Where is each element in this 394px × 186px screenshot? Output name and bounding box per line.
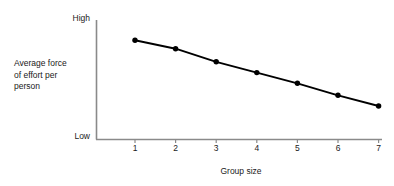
data-point [254, 70, 259, 75]
x-axis-tick-label: 5 [287, 143, 307, 153]
data-point [335, 93, 340, 98]
x-axis-tick-label: 6 [328, 143, 348, 153]
data-point [173, 46, 178, 51]
x-axis-tick-label: 7 [369, 143, 389, 153]
chart-container: Average force of effort per person High … [0, 0, 394, 186]
plot-area [0, 0, 394, 186]
data-point [295, 81, 300, 86]
data-point [376, 103, 381, 108]
x-axis-label: Group size [0, 166, 394, 176]
x-axis-label-text: Group size [220, 166, 261, 176]
data-point [132, 38, 137, 43]
x-axis-tick-label: 2 [166, 143, 186, 153]
x-axis-tick-label: 4 [247, 143, 267, 153]
data-point [214, 59, 219, 64]
x-axis-tick-label: 3 [206, 143, 226, 153]
x-axis-tick-label: 1 [125, 143, 145, 153]
